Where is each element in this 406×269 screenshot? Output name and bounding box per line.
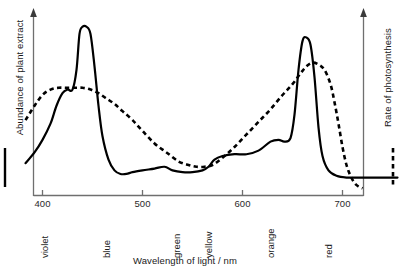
bottom-axis <box>34 190 364 196</box>
chart-canvas <box>0 0 406 269</box>
x-axis-title: Wavelength of light / nm <box>133 255 237 266</box>
x-tick-label-400: 400 <box>23 198 63 209</box>
right-axis <box>360 8 367 196</box>
x-tick-label-600: 600 <box>223 198 263 209</box>
y-axis-right-title: Rate of photosynthesis <box>382 3 393 153</box>
series-rate-of-photosynthesis <box>26 63 363 189</box>
photosynthesis-spectrum-figure: Abundance of plant extract Rate of photo… <box>0 0 406 269</box>
band-label-violet: violet <box>39 236 50 258</box>
band-label-blue: blue <box>101 240 112 258</box>
x-tick-label-700: 700 <box>323 198 363 209</box>
band-label-orange: orange <box>265 228 276 258</box>
band-label-red: red <box>323 244 334 258</box>
band-label-green: green <box>171 234 182 258</box>
y-axis-left-title: Abundance of plant extract <box>14 3 25 153</box>
left-axis <box>30 8 37 196</box>
band-label-yellow: yellow <box>203 232 214 258</box>
x-tick-label-500: 500 <box>123 198 163 209</box>
series-abundance-of-plant-extract <box>26 26 398 178</box>
